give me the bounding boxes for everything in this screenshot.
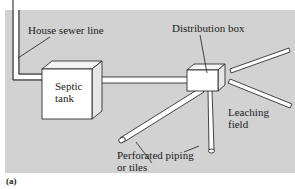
label-field: field [228,118,248,130]
label-septic: Septic [55,80,83,92]
label-tank: tank [55,92,74,104]
label-distribution-box: Distribution box [172,22,244,34]
figure-caption: (a) [6,176,17,186]
label-or-tiles: or tiles [117,161,147,173]
label-leaching: Leaching [228,106,269,118]
label-perforated-piping: Perforated piping [117,149,194,161]
label-house-sewer-line: House sewer line [28,24,104,36]
septic-system-diagram: House sewer line Septic tank Distributio… [0,0,295,189]
